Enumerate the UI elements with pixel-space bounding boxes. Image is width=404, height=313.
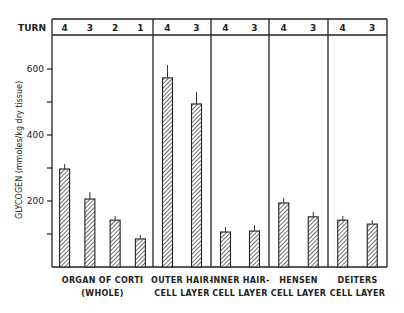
bar: [338, 220, 348, 267]
glycogen-bar-chart: 200400600GLYCOGEN (mmoles/kg dry tissue)…: [0, 0, 404, 313]
turn-number: 4: [222, 23, 228, 33]
turn-number: 2: [112, 23, 118, 33]
y-axis-label: GLYCOGEN (mmoles/kg dry tissue): [15, 81, 24, 219]
y-axis: 200400600GLYCOGEN (mmoles/kg dry tissue): [15, 64, 52, 234]
group-label: ORGAN OF CORTI: [62, 276, 143, 285]
bar: [135, 239, 145, 267]
group-label: INNER HAIR-: [210, 276, 269, 285]
group-labels: ORGAN OF CORTI(WHOLE)OUTER HAIR-CELL LAY…: [62, 276, 385, 298]
turn-header: TURN432143434343: [18, 23, 375, 33]
bar: [279, 203, 289, 267]
bar: [308, 217, 318, 267]
turn-number: 4: [61, 23, 67, 33]
bar: [163, 78, 173, 267]
turn-number: 3: [251, 23, 257, 33]
bar: [192, 104, 202, 267]
bars: [60, 65, 378, 267]
turn-label: TURN: [18, 23, 46, 33]
turn-number: 4: [340, 23, 346, 33]
y-tick-label: 600: [27, 64, 44, 74]
bar: [250, 231, 260, 267]
turn-number: 4: [281, 23, 287, 33]
group-label: DEITERS: [337, 276, 377, 285]
bar: [85, 199, 95, 267]
turn-number: 3: [310, 23, 316, 33]
bar: [367, 224, 377, 267]
bar: [110, 220, 120, 267]
group-label: OUTER HAIR-: [151, 276, 213, 285]
turn-number: 1: [137, 23, 143, 33]
turn-number: 3: [369, 23, 375, 33]
turn-number: 3: [87, 23, 93, 33]
group-label: CELL LAYER: [330, 289, 385, 298]
group-label: (WHOLE): [81, 289, 123, 298]
y-tick-label: 400: [27, 130, 44, 140]
bar: [60, 169, 70, 267]
chart-frame: [52, 19, 387, 267]
y-tick-label: 200: [27, 196, 44, 206]
bar: [221, 232, 231, 267]
turn-number: 3: [193, 23, 199, 33]
group-label: CELL LAYER: [154, 289, 209, 298]
group-label: CELL LAYER: [212, 289, 267, 298]
group-label: HENSEN: [279, 276, 318, 285]
group-label: CELL LAYER: [271, 289, 326, 298]
turn-number: 4: [164, 23, 170, 33]
